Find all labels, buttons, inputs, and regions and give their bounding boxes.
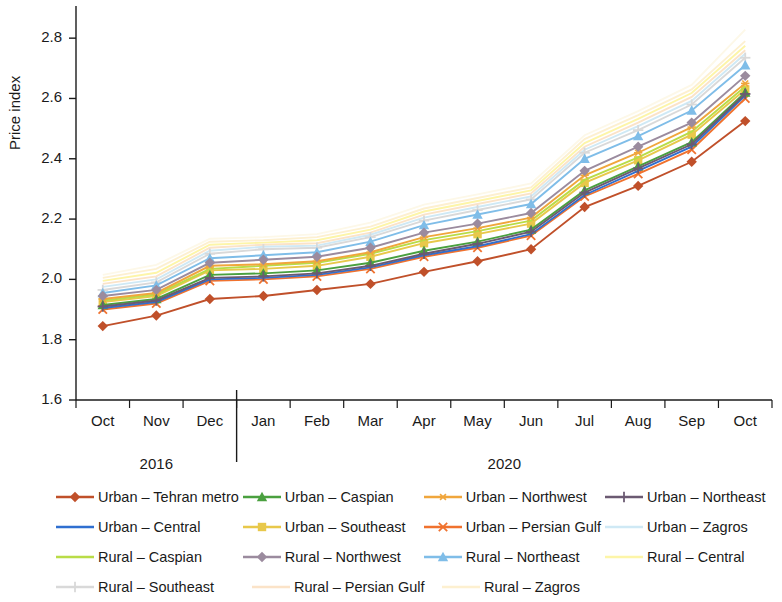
- legend-item-label: Rural – Northwest: [285, 550, 401, 565]
- legend-item-label: Rural – Caspian: [98, 550, 202, 565]
- legend-item[interactable]: Rural – Persian Gulf: [248, 577, 438, 597]
- legend-marker-icon: [52, 547, 98, 567]
- series-line: [98, 89, 751, 312]
- legend-marker-icon: [601, 487, 647, 507]
- legend-item-label: Rural – Central: [647, 550, 745, 565]
- x-tick-label: Sep: [662, 412, 722, 429]
- x-tick-label: May: [448, 412, 508, 429]
- y-tick-label: 1.8: [22, 330, 62, 347]
- legend-item[interactable]: Urban – Zagros: [601, 517, 782, 537]
- x-tick-label: Jan: [233, 412, 293, 429]
- x-tick-label: Jul: [555, 412, 615, 429]
- x-ticks: [76, 400, 772, 408]
- plot-area: Price index 1.61.82.02.22.42.62.8OctNovD…: [0, 0, 782, 480]
- x-tick-label: Oct: [715, 412, 775, 429]
- legend-row: Rural – CaspianRural – NorthwestRural – …: [52, 542, 782, 572]
- legend-item-label: Urban – Central: [98, 520, 200, 535]
- legend-item[interactable]: Urban – Caspian: [239, 487, 420, 507]
- x-tick-label: Nov: [126, 412, 186, 429]
- legend-item-label: Rural – Southeast: [98, 580, 214, 595]
- y-ticks: [69, 38, 76, 400]
- legend-marker-icon: [438, 577, 484, 597]
- legend-row: Rural – SoutheastRural – Persian GulfRur…: [52, 572, 782, 602]
- x-tick-label: Aug: [608, 412, 668, 429]
- legend-item-label: Rural – Persian Gulf: [294, 580, 425, 595]
- legend-marker-icon: [601, 547, 647, 567]
- line-chart-svg: [0, 0, 782, 480]
- legend-item[interactable]: Rural – Zagros: [438, 577, 628, 597]
- legend-marker-icon: [420, 547, 466, 567]
- legend-item-label: Urban – Northwest: [466, 490, 587, 505]
- legend-marker-icon: [420, 517, 466, 537]
- legend-marker-icon: [239, 517, 285, 537]
- chart-legend: Urban – Tehran metroUrban – CaspianUrban…: [0, 482, 782, 602]
- y-tick-label: 1.6: [22, 390, 62, 407]
- legend-item-label: Urban – Caspian: [285, 490, 394, 505]
- legend-item-label: Urban – Northeast: [647, 490, 765, 505]
- y-tick-label: 2.2: [22, 209, 62, 226]
- legend-marker-icon: [248, 577, 294, 597]
- legend-marker-icon: [239, 487, 285, 507]
- legend-row: Urban – CentralUrban – SoutheastUrban – …: [52, 512, 782, 542]
- legend-item[interactable]: Urban – Northwest: [420, 487, 601, 507]
- legend-item[interactable]: Rural – Southeast: [52, 577, 248, 597]
- y-tick-label: 2.0: [22, 269, 62, 286]
- legend-item[interactable]: Urban – Northeast: [601, 487, 782, 507]
- x-tick-label: Jun: [501, 412, 561, 429]
- legend-marker-icon: [601, 517, 647, 537]
- y-tick-label: 2.4: [22, 149, 62, 166]
- x-group-label: 2020: [454, 455, 554, 472]
- x-tick-label: Apr: [394, 412, 454, 429]
- legend-marker-icon: [52, 577, 98, 597]
- legend-marker-icon: [52, 517, 98, 537]
- legend-marker-icon: [420, 487, 466, 507]
- legend-item[interactable]: Rural – Central: [601, 547, 782, 567]
- legend-marker-icon: [52, 487, 98, 507]
- legend-marker-icon: [239, 547, 285, 567]
- legend-item[interactable]: Rural – Northeast: [420, 547, 601, 567]
- legend-item-label: Urban – Persian Gulf: [466, 520, 601, 535]
- legend-item-label: Rural – Zagros: [484, 580, 580, 595]
- x-group-label: 2016: [106, 455, 206, 472]
- x-tick-label: Dec: [180, 412, 240, 429]
- legend-item-label: Urban – Tehran metro: [98, 490, 239, 505]
- x-tick-label: Feb: [287, 412, 347, 429]
- chart-figure: Price index 1.61.82.02.22.42.62.8OctNovD…: [0, 0, 782, 602]
- legend-item-label: Urban – Southeast: [285, 520, 406, 535]
- legend-item[interactable]: Urban – Central: [52, 517, 239, 537]
- legend-item-label: Urban – Zagros: [647, 520, 748, 535]
- x-tick-label: Oct: [73, 412, 133, 429]
- legend-item[interactable]: Urban – Persian Gulf: [420, 517, 601, 537]
- y-tick-label: 2.8: [22, 28, 62, 45]
- legend-item[interactable]: Rural – Caspian: [52, 547, 239, 567]
- legend-item[interactable]: Rural – Northwest: [239, 547, 420, 567]
- legend-item-label: Rural – Northeast: [466, 550, 580, 565]
- legend-item[interactable]: Urban – Tehran metro: [52, 487, 239, 507]
- y-tick-label: 2.6: [22, 88, 62, 105]
- x-tick-label: Mar: [340, 412, 400, 429]
- legend-row: Urban – Tehran metroUrban – CaspianUrban…: [52, 482, 782, 512]
- legend-item[interactable]: Urban – Southeast: [239, 517, 420, 537]
